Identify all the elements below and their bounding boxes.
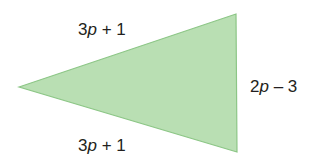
constant: – 3 <box>269 77 297 96</box>
variable: p <box>87 136 96 155</box>
variable: p <box>87 20 96 39</box>
side-label-top: 3p + 1 <box>78 21 126 38</box>
constant: + 1 <box>97 136 126 155</box>
side-label-bottom: 3p + 1 <box>78 137 126 154</box>
variable: p <box>259 77 268 96</box>
constant: + 1 <box>97 20 126 39</box>
triangle <box>19 14 237 152</box>
side-label-right: 2p – 3 <box>250 78 297 95</box>
